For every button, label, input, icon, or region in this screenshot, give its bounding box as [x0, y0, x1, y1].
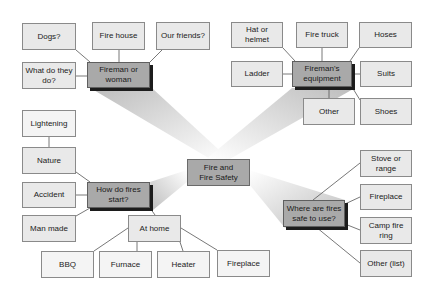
node-bbq[interactable]: BBQ — [41, 251, 94, 278]
node-other-list[interactable]: Other (list) — [360, 250, 412, 277]
node-stove-or-range[interactable]: Stove or range — [360, 150, 412, 177]
node-furnace[interactable]: Furnace — [99, 251, 152, 278]
hub-fireman[interactable]: Fireman or woman — [87, 62, 150, 88]
node-suits[interactable]: Suits — [360, 61, 412, 87]
node-fire-house[interactable]: Fire house — [92, 22, 145, 50]
node-our-friends[interactable]: Our friends? — [156, 22, 210, 50]
beam-start — [150, 170, 187, 210]
concept-map: Fire and Fire Safety Fireman or woman Do… — [0, 0, 435, 291]
node-hoses[interactable]: Hoses — [359, 22, 412, 48]
node-other-equipment[interactable]: Other — [303, 98, 355, 125]
node-at-home[interactable]: At home — [128, 215, 181, 242]
node-accident[interactable]: Accident — [22, 182, 76, 208]
node-hat-or-helmet[interactable]: Hat or helmet — [231, 22, 283, 48]
node-heater[interactable]: Heater — [157, 251, 210, 278]
node-shoes[interactable]: Shoes — [360, 98, 412, 125]
center-node[interactable]: Fire and Fire Safety — [187, 159, 250, 186]
hub-equipment[interactable]: Fireman's equipment — [292, 61, 352, 87]
node-dogs[interactable]: Dogs? — [22, 23, 76, 50]
node-fire-truck[interactable]: Fire truck — [296, 22, 348, 48]
node-what-do-they-do[interactable]: What do they do? — [22, 62, 76, 89]
node-fireplace-home[interactable]: Fireplace — [217, 250, 270, 277]
beam-fireman — [92, 89, 230, 160]
node-lightening[interactable]: Lightening — [22, 110, 76, 137]
node-ladder[interactable]: Ladder — [231, 61, 283, 87]
hub-where-safe[interactable]: Where are fires safe to use? — [283, 200, 345, 227]
node-nature[interactable]: Nature — [22, 147, 76, 174]
hub-how-do-fires-start[interactable]: How do fires start? — [87, 182, 150, 208]
node-camp-fire-ring[interactable]: Camp fire ring — [360, 217, 412, 244]
node-man-made[interactable]: Man made — [22, 215, 76, 242]
node-fireplace-safe[interactable]: Fireplace — [360, 184, 412, 210]
